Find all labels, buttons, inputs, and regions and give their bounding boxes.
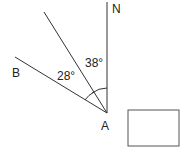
angle-38-label: 38° — [85, 56, 103, 70]
bearing-diagram: N B A 38° 28° — [0, 0, 181, 152]
north-label: N — [112, 2, 121, 16]
angle-arc-28 — [85, 92, 94, 100]
point-b-label: B — [12, 66, 20, 80]
answer-box[interactable] — [128, 110, 179, 146]
angle-28-label: 28° — [57, 69, 75, 83]
point-a-label: A — [101, 119, 109, 133]
